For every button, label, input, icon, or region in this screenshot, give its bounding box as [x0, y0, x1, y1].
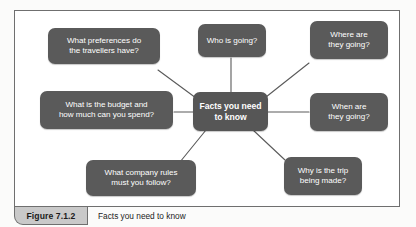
- node-who-going[interactable]: Who is going?: [198, 24, 266, 57]
- node-where-going-label: Where are they going?: [314, 30, 384, 50]
- node-preferences[interactable]: What preferences do the travellers have?: [48, 28, 160, 64]
- node-when-going[interactable]: When are they going?: [310, 93, 388, 131]
- node-budget-label: What is the budget and how much can you …: [44, 100, 169, 120]
- node-center-facts[interactable]: Facts you need to know: [193, 92, 268, 131]
- node-company-rules-label: What company rules must you follow?: [90, 168, 192, 188]
- figure-caption-row: Figure 7.1.2 Facts you need to know: [14, 207, 400, 225]
- node-preferences-label: What preferences do the travellers have?: [52, 36, 156, 56]
- node-budget[interactable]: What is the budget and how much can you …: [40, 91, 173, 129]
- node-who-going-label: Who is going?: [202, 36, 262, 46]
- node-why-trip[interactable]: Why is the trip being made?: [284, 157, 362, 195]
- node-company-rules[interactable]: What company rules must you follow?: [86, 160, 196, 196]
- node-center-label: Facts you need to know: [197, 101, 264, 122]
- node-why-trip-label: Why is the trip being made?: [288, 166, 358, 186]
- node-where-going[interactable]: Where are they going?: [310, 21, 388, 59]
- figure-number-label: Figure 7.1.2: [14, 207, 88, 225]
- figure-screenshot: What preferences do the travellers have?…: [0, 0, 416, 227]
- figure-caption-text: Facts you need to know: [88, 207, 400, 225]
- node-when-going-label: When are they going?: [314, 102, 384, 122]
